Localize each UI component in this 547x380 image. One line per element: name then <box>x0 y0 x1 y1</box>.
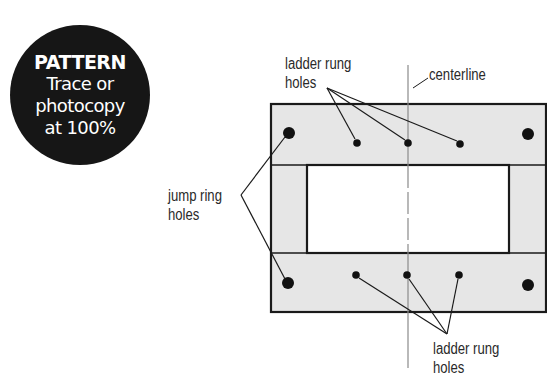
jump-ring-hole-top-right <box>522 128 534 140</box>
ladder-hole-top-1 <box>353 139 361 147</box>
pattern-diagram <box>0 0 547 380</box>
label-bottom-ladder-line2: holes <box>433 358 464 377</box>
label-bottom-ladder-line1: ladder rung <box>433 339 499 358</box>
leader-centerline <box>413 78 428 88</box>
ladder-hole-top-3 <box>456 140 464 148</box>
ladder-hole-bottom-3 <box>455 271 463 279</box>
label-jump-ring-line2: holes <box>168 205 199 224</box>
ladder-hole-top-2 <box>404 139 412 147</box>
jump-ring-hole-bottom-right <box>522 279 534 291</box>
label-jump-ring-line1: jump ring <box>168 186 222 205</box>
ladder-hole-bottom-1 <box>352 271 360 279</box>
label-top-ladder-line1: ladder rung <box>285 54 351 73</box>
ladder-hole-bottom-2 <box>403 271 411 279</box>
label-top-ladder-line2: holes <box>285 73 316 92</box>
jump-ring-hole-bottom-left <box>282 277 294 289</box>
label-centerline: centerline <box>429 65 486 84</box>
